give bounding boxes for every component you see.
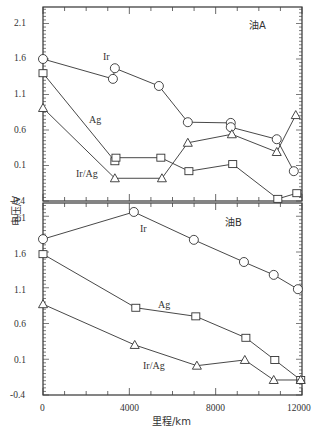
square-marker [39,251,47,258]
label-b-ir: Ir [140,223,147,234]
ytick-b-1.1: 1.1 [14,285,26,295]
label-a-ir: Ir [103,51,110,62]
square-marker [192,313,200,320]
circle-marker [39,55,48,64]
triangle-marker [39,103,48,111]
square-marker [229,161,237,168]
xtick-4000: 4000 [120,403,139,413]
circle-marker [293,285,302,294]
square-marker [157,154,165,161]
xtick-12000: 12000 [287,403,311,413]
ytick-b-0.1: 0.1 [14,355,26,365]
ytick-a-1.6: 1.6 [14,53,26,63]
circle-marker [272,135,281,144]
square-marker [293,190,301,197]
circle-marker [129,207,138,216]
square-marker [271,356,279,363]
circle-marker [226,123,235,132]
x-axis-title: 里程/km [152,416,191,427]
label-a-irag: Ir/Ag [76,168,98,179]
ytick-a-2.1: 2.1 [14,18,26,28]
xtick-0: 0 [40,403,45,413]
triangle-marker [130,340,139,348]
ytick-b-0.6: 0.6 [14,319,26,329]
triangle-marker [240,355,249,363]
square-marker [39,70,47,77]
ytick-b-1.6: 1.6 [14,249,26,259]
triangle-marker [291,111,300,119]
series-line-ag [43,73,297,199]
circle-marker [269,270,278,279]
square-marker [132,304,140,311]
circle-marker [154,81,163,90]
square-marker [112,154,120,161]
label-b-ag: Ag [158,299,170,310]
series-line-ag [43,254,301,380]
triangle-marker [157,174,166,182]
ytick-a-0.1: 0.1 [14,160,26,170]
square-marker [274,195,282,202]
square-marker [185,168,193,175]
data-series [39,55,306,384]
square-marker [242,334,250,341]
xtick-8000: 8000 [206,403,225,413]
label-b-irag: Ir/Ag [143,360,165,371]
series-line-ir-ag [43,304,301,380]
circle-marker [289,167,298,176]
ytick-a-1.1: 1.1 [14,89,26,99]
series-line-ir [43,59,294,171]
ytick-b--0.4: -0.4 [10,390,25,400]
panel-title-oil-b: 油B [225,216,242,228]
panel-frame [43,203,302,395]
circle-marker [239,258,248,267]
panel-title-oil-a: 油A [249,19,266,31]
ytick-a-0.6: 0.6 [14,125,26,135]
circle-marker [189,235,198,244]
circle-marker [183,118,192,127]
triangle-marker [39,300,48,308]
label-a-ag: Ag [89,114,101,125]
triangle-marker [269,375,278,383]
triangle-marker [272,148,281,156]
voltage-vs-mileage-chart: 2.1 1.6 1.1 0.6 0.1 -0.4 2.1 1.6 1.1 0.6… [0,0,321,433]
series-line-ir [43,212,298,289]
circle-marker [39,235,48,244]
y-axis-title: 电压/V [10,196,22,226]
circle-marker [108,74,117,83]
circle-marker [110,64,119,73]
